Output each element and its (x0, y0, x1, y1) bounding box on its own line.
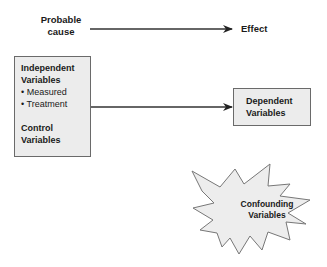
bullet-treatment: • Treatment (21, 98, 90, 110)
dependent-line-2: Variables (246, 107, 310, 119)
spacer (21, 110, 90, 122)
independent-title-line-2: Variables (21, 74, 90, 86)
independent-variables-box: Independent Variables • Measured • Treat… (14, 56, 91, 157)
confounding-line-2: Variables (232, 210, 302, 221)
confounding-variables-label: Confounding Variables (232, 199, 302, 221)
probable-cause-label: Probable cause (36, 14, 86, 38)
control-title-line-2: Variables (21, 134, 90, 146)
cause-line-1: Probable (36, 14, 86, 26)
independent-title-line-1: Independent (21, 62, 90, 74)
dependent-line-1: Dependent (246, 95, 310, 107)
effect-label: Effect (241, 23, 267, 34)
bullet-measured: • Measured (21, 86, 90, 98)
control-title-line-1: Control (21, 122, 90, 134)
confounding-line-1: Confounding (232, 199, 302, 210)
dependent-variables-box: Dependent Variables (233, 88, 311, 126)
cause-line-2: cause (36, 26, 86, 38)
